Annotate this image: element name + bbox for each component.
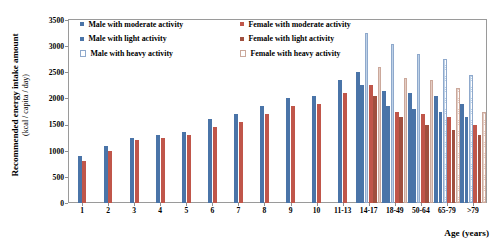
y-axis-tick-label: 3500: [34, 16, 64, 25]
bar: [386, 106, 389, 203]
x-axis-tick-label: 5: [173, 206, 199, 215]
bar: [187, 135, 191, 203]
legend-swatch-icon: [80, 37, 84, 41]
bar: [373, 96, 376, 203]
bar: [338, 80, 342, 203]
bar: [425, 125, 428, 203]
bar: [460, 104, 463, 203]
legend-label: Female with light activity: [248, 34, 334, 43]
bar: [469, 75, 473, 203]
legend-swatch-icon: [240, 50, 246, 56]
legend-item: Female with light activity: [240, 34, 420, 43]
x-axis-tick-label: 65-79: [434, 206, 460, 215]
bar: [439, 112, 442, 204]
x-axis-tick-label: 14-17: [356, 206, 382, 215]
legend-label: Female with heavy activity: [250, 49, 340, 58]
x-axis-tick-label: 50-64: [408, 206, 434, 215]
energy-intake-bar-chart: Recommended energy intake amount (kcal /…: [0, 0, 497, 250]
bar: [108, 151, 112, 203]
bar: [465, 117, 468, 203]
bar: [417, 54, 421, 203]
x-axis-tick-label: 6: [199, 206, 225, 215]
legend-label: Male with heavy activity: [90, 49, 173, 58]
legend-swatch-icon: [80, 50, 86, 56]
y-axis-tick-label: 1000: [34, 147, 64, 156]
y-axis-title: Recommended energy intake amount (kcal /…: [0, 0, 34, 215]
legend-item: Female with moderate activity: [240, 20, 420, 29]
x-axis-tick-label: 3: [121, 206, 147, 215]
x-axis-tick-label: 1: [69, 206, 95, 215]
y-axis-tick-label: 0: [34, 199, 64, 208]
x-axis-tick-label: 4: [147, 206, 173, 215]
bar: [208, 119, 212, 203]
y-axis-title-units: (kcal / capita / day): [21, 74, 30, 136]
y-axis-tick-label: 3000: [34, 42, 64, 51]
bar: [234, 114, 238, 203]
y-axis-title-main: Recommended energy intake amount: [10, 33, 21, 176]
legend: Male with moderate activityFemale with m…: [80, 17, 420, 61]
y-axis-tick-mark: [65, 20, 68, 21]
bar: [482, 112, 486, 204]
bar: [317, 104, 321, 203]
bar: [434, 96, 437, 203]
bar: [161, 138, 165, 203]
legend-label: Male with moderate activity: [88, 20, 183, 29]
x-axis-tick-label: 11-13: [330, 206, 356, 215]
y-axis-tick-mark: [65, 151, 68, 152]
bar: [213, 127, 217, 203]
bar: [447, 117, 450, 203]
y-axis-tick-mark: [65, 125, 68, 126]
bar: [130, 138, 134, 203]
y-axis-tick-mark: [65, 72, 68, 73]
legend-swatch-icon: [80, 22, 84, 26]
y-axis-tick-label: 500: [34, 173, 64, 182]
bar: [369, 85, 372, 203]
legend-item: Male with heavy activity: [80, 49, 240, 58]
x-axis-tick-label: 18-49: [382, 206, 408, 215]
bar: [412, 109, 415, 203]
bar: [473, 125, 476, 203]
bar: [135, 140, 139, 203]
y-axis-tick-mark: [65, 177, 68, 178]
bar: [265, 114, 269, 203]
y-axis-tick-mark: [65, 98, 68, 99]
legend-item: Female with heavy activity: [240, 49, 420, 58]
bar: [182, 132, 186, 203]
bar: [78, 156, 82, 203]
legend-label: Male with light activity: [88, 34, 166, 43]
x-axis-tick-label: 7: [225, 206, 251, 215]
bar: [421, 114, 424, 203]
legend-swatch-icon: [240, 22, 244, 26]
x-axis-tick-label: >79: [460, 206, 486, 215]
y-axis-tick-label: 1500: [34, 120, 64, 129]
bar-group: [460, 20, 486, 203]
bar: [343, 93, 347, 203]
x-axis-tick-label: 8: [251, 206, 277, 215]
x-axis-title: Age (years): [444, 228, 489, 238]
bar: [478, 135, 481, 203]
bar: [408, 93, 411, 203]
x-axis-tick-label: 10: [304, 206, 330, 215]
bar: [286, 98, 290, 203]
y-axis-tick-label: 2500: [34, 68, 64, 77]
bar: [104, 146, 108, 204]
legend-item: Male with light activity: [80, 34, 240, 43]
bar: [443, 59, 447, 203]
y-axis-tick-label: 2000: [34, 94, 64, 103]
bar: [312, 96, 316, 203]
bar: [452, 130, 455, 203]
legend-swatch-icon: [240, 37, 244, 41]
y-axis-tick-mark: [65, 203, 68, 204]
bar: [382, 91, 385, 203]
x-axis-tick-label: 2: [95, 206, 121, 215]
legend-item: Male with moderate activity: [80, 20, 240, 29]
bar: [391, 44, 395, 203]
bar: [291, 106, 295, 203]
bar: [356, 72, 359, 203]
bar: [260, 106, 264, 203]
x-axis-tick-label: 9: [278, 206, 304, 215]
bar: [156, 135, 160, 203]
bar-group: [434, 20, 460, 203]
bar: [82, 161, 86, 203]
legend-label: Female with moderate activity: [248, 20, 350, 29]
